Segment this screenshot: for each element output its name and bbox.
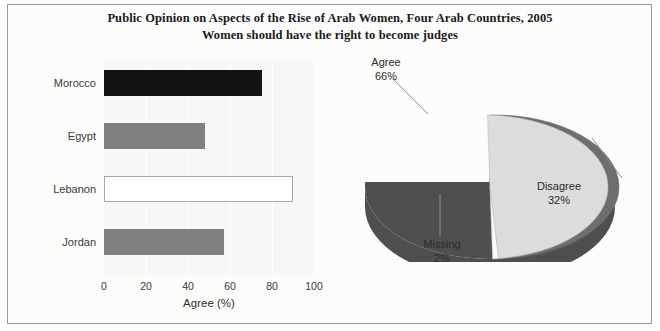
bar-chart-panel: MoroccoEgyptLebanonJordan 020406080100 A…: [28, 56, 328, 311]
bar-label-lebanon: Lebanon: [6, 183, 96, 195]
chart-title-line1: Public Opinion on Aspects of the Rise of…: [0, 10, 660, 27]
bar-label-egypt: Egypt: [6, 130, 96, 142]
pie-label-disagree-text: Disagree: [537, 180, 581, 192]
pie-label-agree: Agree 66%: [358, 56, 414, 83]
gridline-80: [272, 60, 273, 275]
pie-label-agree-text: Agree: [371, 56, 400, 68]
pie-label-missing-pct: 2%: [412, 252, 472, 266]
bar-morocco: [104, 70, 262, 96]
pie-chart-panel: Agree 66% Disagree 32% Missing 2%: [330, 52, 650, 312]
bar-egypt: [104, 123, 205, 149]
pie-label-missing-text: Missing: [423, 238, 460, 250]
gridline-100: [314, 60, 315, 275]
x-tick-20: 20: [140, 280, 152, 292]
leader-line-agree: [392, 78, 428, 114]
figure-root: Public Opinion on Aspects of the Rise of…: [0, 0, 660, 331]
pie-label-disagree: Disagree 32%: [528, 180, 590, 207]
x-tick-100: 100: [305, 280, 323, 292]
bar-jordan: [104, 229, 224, 255]
chart-title-line2: Women should have the right to become ju…: [0, 27, 660, 44]
bar-label-morocco: Morocco: [6, 77, 96, 89]
x-tick-0: 0: [101, 280, 107, 292]
bar-label-jordan: Jordan: [6, 236, 96, 248]
pie-label-disagree-pct: 32%: [528, 194, 590, 208]
x-tick-80: 80: [266, 280, 278, 292]
bar-x-axis-title: Agree (%): [104, 297, 314, 309]
x-tick-60: 60: [224, 280, 236, 292]
pie-label-missing: Missing 2%: [412, 238, 472, 265]
x-tick-40: 40: [182, 280, 194, 292]
bar-lebanon: [104, 176, 293, 202]
chart-title: Public Opinion on Aspects of the Rise of…: [0, 10, 660, 44]
pie-label-agree-pct: 66%: [358, 70, 414, 84]
pie-chart-graphic: [330, 52, 650, 312]
